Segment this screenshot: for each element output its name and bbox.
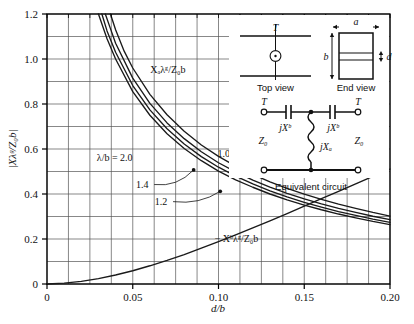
label-1p0: 1.0	[217, 148, 230, 159]
label-1p4: 1.4	[136, 179, 149, 190]
label-1p2: 1.2	[155, 196, 168, 207]
y-tick-label: 1.2	[24, 8, 38, 20]
lambda-b-label: λ/b = 2.0	[97, 152, 133, 163]
y-tick-label: 0	[33, 278, 39, 290]
x-tick-label: 0.05	[123, 291, 143, 303]
circuit-z-right: Z₀	[354, 135, 364, 146]
x-tick-label: 0	[44, 291, 50, 303]
x-tick-label: 0.15	[295, 291, 315, 303]
lower-curve-label: − Xᵇλᵍ/Z₀b	[215, 233, 259, 244]
figure-root: 00.050.100.150.2000.20.40.60.81.01.2 Xₐλ…	[0, 0, 414, 324]
svg-text:|Xλᵍ/Z₀b|: |Xλᵍ/Z₀b|	[6, 129, 18, 168]
y-axis-title: |Xλᵍ/Z₀b|	[6, 129, 18, 168]
y-tick-label: 0.2	[24, 233, 38, 245]
upper-family-label: Xₐλᵍ/Z₀b	[150, 64, 185, 75]
circuit-series-right: jXᵇ	[325, 122, 340, 133]
end-view-dim-a: a	[354, 16, 359, 27]
inset-diagrams: T Top view a b d End view	[229, 15, 393, 192]
y-tick-label: 0.4	[24, 188, 38, 200]
y-tick-label: 0.8	[24, 98, 38, 110]
end-view-dim-b: b	[324, 51, 329, 62]
top-view-caption: Top view	[257, 82, 294, 93]
x-tick-label: 0.20	[380, 291, 400, 303]
leader-endpoint	[218, 189, 222, 193]
x-axis-title: d/b	[211, 302, 226, 314]
y-tick-label: 1.0	[24, 53, 38, 65]
chart-svg: 00.050.100.150.2000.20.40.60.81.01.2 Xₐλ…	[0, 0, 414, 324]
circuit-z-left: Z₀	[258, 135, 268, 146]
y-tick-label: 0.6	[24, 143, 38, 155]
circuit-series-left: jXᵇ	[277, 122, 292, 133]
circuit-shunt-label: jXₐ	[318, 141, 332, 152]
leader-endpoint	[192, 168, 196, 172]
end-view-caption: End view	[337, 82, 376, 93]
equivalent-circuit-caption: Equivalent circuit	[275, 181, 347, 192]
